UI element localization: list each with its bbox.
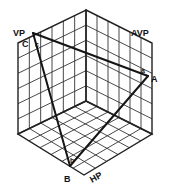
label-point-c: C bbox=[22, 39, 29, 49]
projection-diagram: VP AVP HP C c A a B b bbox=[0, 0, 169, 187]
vp-plane-grid bbox=[18, 16, 86, 129]
label-projection-b: b bbox=[70, 157, 74, 164]
label-point-a: A bbox=[151, 74, 158, 84]
label-projection-a: a bbox=[141, 67, 145, 74]
label-point-b: B bbox=[64, 174, 71, 184]
label-vp: VP bbox=[13, 28, 25, 38]
label-hp: HP bbox=[88, 170, 104, 185]
label-projection-c: c bbox=[35, 41, 39, 48]
line-ca bbox=[33, 33, 148, 76]
label-avp: AVP bbox=[131, 28, 149, 38]
hp-plane-grid bbox=[29, 107, 141, 169]
line-ba bbox=[70, 76, 148, 166]
